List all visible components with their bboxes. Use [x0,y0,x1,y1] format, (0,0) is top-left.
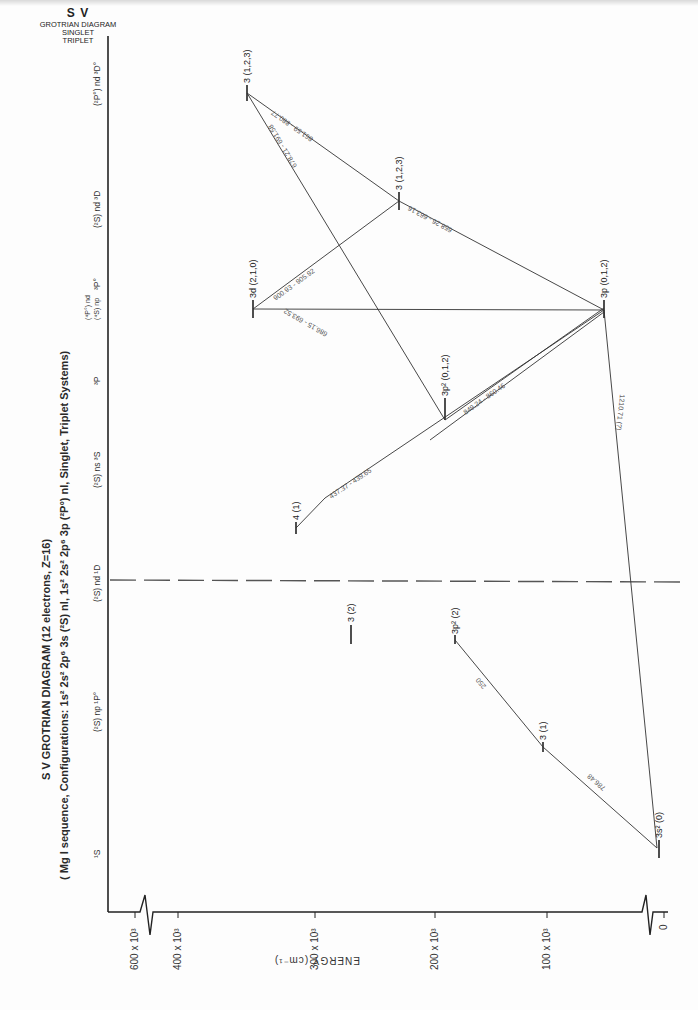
transition-437 [296,310,604,528]
transition-786 [543,747,657,848]
transition-1210 [604,310,657,848]
column-3Do: (²P°) nd ³D° [92,62,102,106]
level-label-3p-012: 3p (0,1,2) [599,259,609,298]
level-label-3-123-D: 3 (1,2,3) [394,156,404,190]
diagram-subtitle: ( Mg I sequence, Configurations: 1s² 2s²… [58,351,70,880]
level-label-3-1: 3 (1) [538,721,548,740]
level-label-3s2: 3s² (0) [654,812,664,838]
energy-axis [108,895,668,935]
column-3Po-np: (⁴S) np [93,298,100,320]
column-1P: (²S) np ¹P° [92,692,102,732]
transition-250 [455,640,543,747]
transition-849b [430,312,604,440]
tick-label-0: 0 [658,924,669,930]
column-3Po: ³P° [92,278,102,290]
level-label-3-2: 3 (2) [346,603,356,622]
tick-label-100: 100 x 10³ [541,928,552,970]
column-3D: (²S) nd ³D [92,191,102,228]
tick-label-200: 200 x 10³ [429,928,440,970]
diagram-title: S V GROTRIAN DIAGRAM (12 electrons, Z=16… [40,539,52,780]
energy-axis-label: ENERGY (cm⁻¹) [274,955,360,966]
tick-label-600: 600 x 10³ [129,928,140,970]
level-label-4-1: 4 (1) [291,501,301,520]
grotrian-diagram [0,0,698,1010]
level-label-3-123-Do: 3 (1,2,3) [242,49,252,83]
level-label-3p2-2: 3p² (2) [450,607,460,634]
column-3P: ³P [92,377,102,386]
column-3Po-nd: (⁴P°) nd [84,295,91,320]
level-label-3p2-012: 3p² (0,1,2) [440,354,450,396]
transition-686 [253,309,604,310]
column-1S: ¹S [92,850,102,859]
column-1D: (²S) nd ¹D [92,565,102,602]
transition-849 [445,308,604,420]
column-3S: (²S) ns ³S [92,452,102,488]
system-separator [110,580,680,582]
level-label-3d-210: 3d (2,1,0) [248,259,258,298]
transition-861 [247,93,399,201]
diagram-page: S V GROTRIAN DIAGRAM SINGLET TRIPLET [0,0,698,1010]
tick-label-400: 400 x 10³ [172,928,183,970]
